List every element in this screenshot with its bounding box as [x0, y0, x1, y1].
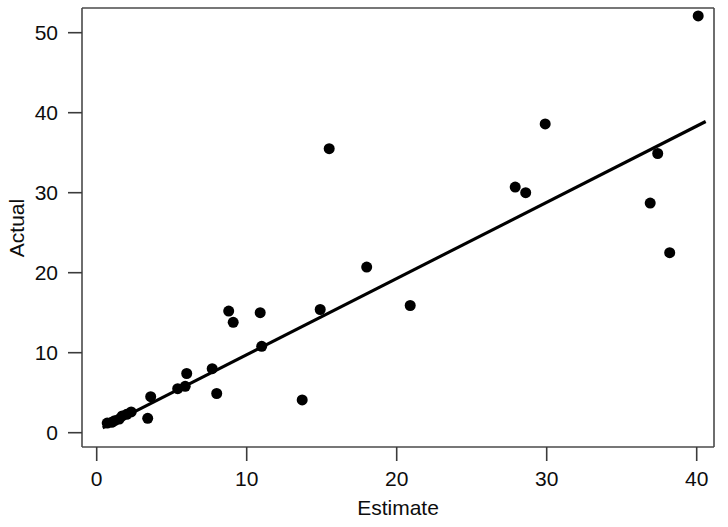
y-tick-label: 40	[35, 101, 58, 124]
data-point	[693, 10, 704, 21]
data-point	[664, 247, 675, 258]
data-point	[256, 341, 267, 352]
y-tick-label: 50	[35, 21, 58, 44]
y-tick-label: 10	[35, 341, 58, 364]
data-point	[207, 363, 218, 374]
y-axis-title: Actual	[5, 199, 28, 257]
data-point	[211, 388, 222, 399]
data-point	[540, 118, 551, 129]
x-tick-label: 30	[535, 467, 558, 490]
data-point	[223, 306, 234, 317]
data-point	[510, 182, 521, 193]
data-point	[297, 394, 308, 405]
data-point	[315, 304, 326, 315]
data-point	[180, 381, 191, 392]
data-point	[145, 391, 156, 402]
data-point	[520, 187, 531, 198]
plot-canvas: 01020304050 010203040 Estimate Actual	[0, 0, 728, 527]
x-tick-label: 20	[385, 467, 408, 490]
data-point	[645, 198, 656, 209]
data-point	[405, 300, 416, 311]
data-point	[324, 143, 335, 154]
data-point	[652, 148, 663, 159]
x-axis-title: Estimate	[357, 496, 439, 519]
data-point	[181, 368, 192, 379]
x-tick-label: 40	[685, 467, 708, 490]
data-point	[126, 406, 137, 417]
data-point	[255, 307, 266, 318]
data-point	[361, 262, 372, 273]
y-tick-label: 30	[35, 181, 58, 204]
data-point	[142, 413, 153, 424]
data-point	[228, 317, 239, 328]
scatter-plot-figure: 01020304050 010203040 Estimate Actual	[0, 0, 728, 527]
x-tick-label: 10	[235, 467, 258, 490]
y-tick-label: 0	[46, 421, 58, 444]
y-tick-label: 20	[35, 261, 58, 284]
x-tick-label: 0	[91, 467, 103, 490]
